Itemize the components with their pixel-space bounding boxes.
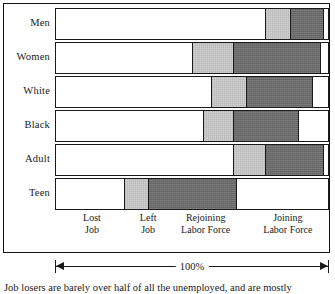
bar-segment-joining-labor-force bbox=[323, 9, 328, 39]
bar-segment-left-job bbox=[192, 43, 233, 73]
x-axis-label-rejoining: RejoiningLabor Force bbox=[181, 212, 230, 235]
bar-segment-left-job bbox=[124, 179, 148, 209]
bar-segment-left-job bbox=[233, 145, 266, 175]
x-axis-label-left: LeftJob bbox=[140, 212, 157, 235]
scale-label: 100% bbox=[176, 258, 209, 275]
bar-segment-joining-labor-force bbox=[323, 145, 328, 175]
stacked-bar bbox=[55, 144, 329, 176]
stacked-bar bbox=[55, 76, 329, 108]
category-label-black: Black bbox=[0, 119, 50, 130]
x-axis-group-labels: LostJobLeftJobRejoiningLabor ForceJoinin… bbox=[55, 212, 329, 244]
figure-caption: Job losers are barely over half of all t… bbox=[4, 282, 335, 294]
x-axis-label-line2: Labor Force bbox=[181, 224, 230, 236]
stacked-bar bbox=[55, 42, 329, 74]
x-axis-label-lost: LostJob bbox=[83, 212, 101, 235]
bar-segment-left-job bbox=[211, 77, 246, 107]
plot-area bbox=[55, 8, 329, 210]
stacked-bar bbox=[55, 178, 329, 210]
stacked-bar bbox=[55, 110, 329, 142]
bar-segment-left-job bbox=[265, 9, 289, 39]
category-label-adult: Adult bbox=[0, 153, 50, 164]
bar-segment-rejoining-labor-force bbox=[148, 179, 235, 209]
bar-row bbox=[55, 8, 329, 40]
bar-row bbox=[55, 144, 329, 176]
scale-arrow-left-icon bbox=[56, 262, 64, 270]
bar-segment-lost-job bbox=[56, 9, 265, 39]
bar-segment-joining-labor-force bbox=[298, 111, 328, 141]
x-axis-label-line2: Job bbox=[140, 224, 157, 236]
x-axis-label-line2: Job bbox=[83, 224, 101, 236]
bar-segment-rejoining-labor-force bbox=[233, 43, 320, 73]
x-axis-label-line1: Left bbox=[140, 212, 157, 224]
stacked-bar-chart-figure: LostJobLeftJobRejoiningLabor ForceJoinin… bbox=[0, 0, 335, 294]
bar-segment-joining-labor-force bbox=[236, 179, 328, 209]
bar-row bbox=[55, 110, 329, 142]
scale-arrow-right-icon bbox=[320, 262, 328, 270]
bar-row bbox=[55, 76, 329, 108]
bar-segment-rejoining-labor-force bbox=[290, 9, 323, 39]
bar-segment-left-job bbox=[203, 111, 233, 141]
x-axis-label-joining: JoiningLabor Force bbox=[263, 212, 312, 235]
bar-segment-rejoining-labor-force bbox=[265, 145, 322, 175]
bar-segment-joining-labor-force bbox=[312, 77, 328, 107]
category-label-men: Men bbox=[0, 17, 50, 28]
x-axis-label-line1: Lost bbox=[83, 212, 101, 224]
bar-segment-joining-labor-force bbox=[320, 43, 328, 73]
bar-segment-lost-job bbox=[56, 77, 211, 107]
bar-row bbox=[55, 178, 329, 210]
bar-segment-lost-job bbox=[56, 179, 124, 209]
category-label-women: Women bbox=[0, 51, 50, 62]
x-axis-label-line1: Rejoining bbox=[181, 212, 230, 224]
bar-segment-lost-job bbox=[56, 43, 192, 73]
scale-bar-100-percent: 100% bbox=[55, 258, 329, 276]
x-axis-label-line2: Labor Force bbox=[263, 224, 312, 236]
bar-segment-rejoining-labor-force bbox=[246, 77, 311, 107]
bar-segment-lost-job bbox=[56, 111, 203, 141]
x-axis-label-line1: Joining bbox=[263, 212, 312, 224]
stacked-bar bbox=[55, 8, 329, 40]
bar-row bbox=[55, 42, 329, 74]
bar-segment-lost-job bbox=[56, 145, 233, 175]
category-label-teen: Teen bbox=[0, 187, 50, 198]
bar-segment-rejoining-labor-force bbox=[233, 111, 298, 141]
category-label-white: White bbox=[0, 85, 50, 96]
